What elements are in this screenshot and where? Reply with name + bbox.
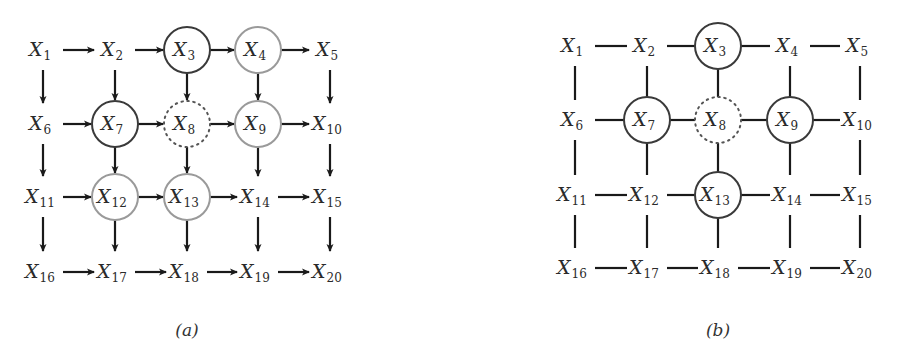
node-label: X16 xyxy=(555,256,587,281)
node-x5: X5 xyxy=(314,38,338,63)
node-x12: X12 xyxy=(92,174,138,220)
node-label: X6 xyxy=(27,112,51,137)
node-x2: X2 xyxy=(99,38,123,63)
node-label: X6 xyxy=(559,108,583,133)
node-x17: X17 xyxy=(627,256,659,281)
undirected-grid-figure-b: X1X2X3X4X5X6X7X8X9X10X11X12X13X14X15X16X… xyxy=(555,23,872,340)
node-x16: X16 xyxy=(23,260,55,285)
node-label: X5 xyxy=(844,34,868,59)
node-x19: X19 xyxy=(238,260,270,285)
figure-caption: (b) xyxy=(706,320,730,340)
figure-caption: (a) xyxy=(175,320,198,340)
node-x8: X8 xyxy=(164,101,210,147)
node-x20: X20 xyxy=(310,260,342,285)
node-label: X1 xyxy=(559,34,583,59)
node-label: X10 xyxy=(840,108,872,133)
node-x18: X18 xyxy=(698,256,730,281)
node-x15: X15 xyxy=(840,183,872,208)
node-label: X11 xyxy=(23,185,55,210)
node-x1: X1 xyxy=(27,38,51,63)
node-x20: X20 xyxy=(840,256,872,281)
node-x17: X17 xyxy=(95,260,127,285)
node-x2: X2 xyxy=(631,34,655,59)
node-label: X12 xyxy=(627,183,659,208)
node-label: X20 xyxy=(310,260,342,285)
node-x10: X10 xyxy=(840,108,872,133)
node-label: X5 xyxy=(314,38,338,63)
node-label: X19 xyxy=(770,256,802,281)
node-label: X11 xyxy=(555,183,587,208)
node-label: X18 xyxy=(167,260,199,285)
node-label: X14 xyxy=(238,185,270,210)
node-x9: X9 xyxy=(767,97,813,143)
node-label: X2 xyxy=(631,34,655,59)
node-label: X18 xyxy=(698,256,730,281)
node-x6: X6 xyxy=(27,112,51,137)
node-label: X17 xyxy=(95,260,127,285)
node-x18: X18 xyxy=(167,260,199,285)
node-x12: X12 xyxy=(627,183,659,208)
node-x11: X11 xyxy=(23,185,55,210)
node-x6: X6 xyxy=(559,108,583,133)
node-label: X19 xyxy=(238,260,270,285)
node-x8: X8 xyxy=(695,97,741,143)
node-label: X14 xyxy=(770,183,802,208)
node-x7: X7 xyxy=(624,97,670,143)
node-x19: X19 xyxy=(770,256,802,281)
node-x10: X10 xyxy=(310,112,342,137)
node-x4: X4 xyxy=(235,27,281,73)
node-x4: X4 xyxy=(774,34,799,59)
node-label: X4 xyxy=(774,34,799,59)
node-x3: X3 xyxy=(695,23,741,69)
node-x14: X14 xyxy=(238,185,270,210)
node-label: X15 xyxy=(310,185,342,210)
node-x14: X14 xyxy=(770,183,802,208)
node-x9: X9 xyxy=(235,101,281,147)
node-x15: X15 xyxy=(310,185,342,210)
node-x3: X3 xyxy=(164,27,210,73)
node-label: X17 xyxy=(627,256,659,281)
node-label: X20 xyxy=(840,256,872,281)
node-label: X16 xyxy=(23,260,55,285)
node-label: X10 xyxy=(310,112,342,137)
directed-grid-figure-a: X1X2X3X4X5X6X7X8X9X10X11X12X13X14X15X16X… xyxy=(23,27,342,340)
diagram-canvas: X1X2X3X4X5X6X7X8X9X10X11X12X13X14X15X16X… xyxy=(0,0,897,363)
node-x7: X7 xyxy=(92,101,138,147)
node-label: X15 xyxy=(840,183,872,208)
node-x1: X1 xyxy=(559,34,583,59)
node-x16: X16 xyxy=(555,256,587,281)
node-x5: X5 xyxy=(844,34,868,59)
node-x11: X11 xyxy=(555,183,587,208)
node-label: X2 xyxy=(99,38,123,63)
node-x13: X13 xyxy=(695,172,741,218)
node-x13: X13 xyxy=(164,174,210,220)
node-label: X1 xyxy=(27,38,51,63)
